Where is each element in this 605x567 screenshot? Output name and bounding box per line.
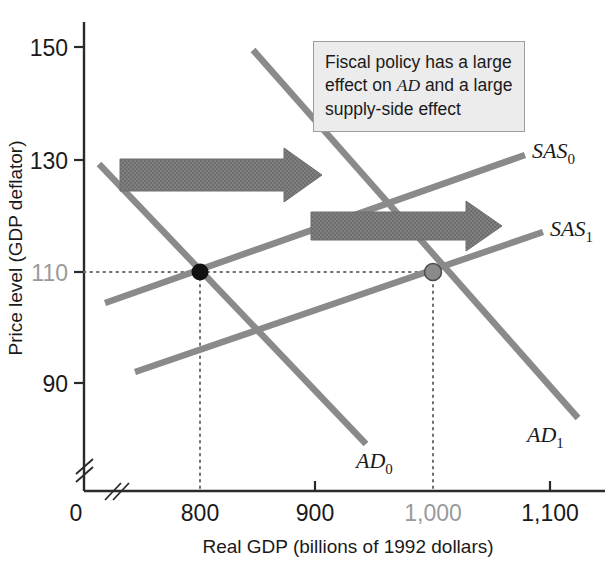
figure-canvas: 150 130 110 90 0 800 900 1,000 1,100 Rea… (0, 0, 605, 567)
ad-shift-arrow (120, 148, 322, 202)
callout-box: Fiscal policy has a largeeffect on AD an… (313, 41, 525, 132)
sas1-curve (135, 232, 543, 372)
x-tick-label-800: 800 (181, 500, 219, 526)
ad0-curve-label: AD0 (354, 448, 393, 477)
y-axis-ticks (74, 47, 84, 383)
y-tick-label-90: 90 (42, 371, 68, 397)
callout-text: Fiscal policy has a largeeffect on AD an… (325, 51, 513, 121)
x-tick-label-900: 900 (296, 500, 334, 526)
x-tick-label-1100: 1,100 (521, 500, 579, 526)
sas1-curve-label: SAS1 (550, 216, 593, 245)
callout-ad-term: AD (397, 75, 420, 95)
x-tick-label-1000: 1,000 (404, 500, 462, 526)
y-tick-label-130: 130 (30, 148, 68, 174)
new-equilibrium-point (425, 264, 442, 281)
callout-line-2-pre: effect on (325, 75, 397, 95)
sas0-curve-label: SAS0 (532, 138, 575, 167)
initial-equilibrium-point (192, 264, 209, 281)
sas-shift-arrow (311, 201, 502, 251)
y-tick-label-110: 110 (31, 260, 68, 286)
callout-line-3: supply-side effect (325, 99, 461, 119)
callout-line-2-post: and a large (420, 75, 512, 95)
y-tick-label-150: 150 (30, 35, 68, 61)
origin-label: 0 (70, 500, 83, 526)
callout-line-1: Fiscal policy has a large (325, 52, 512, 72)
y-axis-title: Price level (GDP deflator) (5, 140, 26, 355)
ad1-curve-label: AD1 (525, 422, 564, 451)
x-axis-title: Real GDP (billions of 1992 dollars) (202, 536, 493, 557)
